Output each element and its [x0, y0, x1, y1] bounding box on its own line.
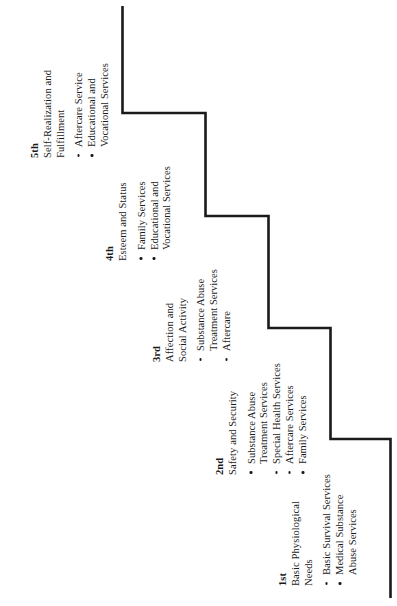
tier-1-service-label: Basic Survival Services — [320, 474, 331, 575]
bullet-icon — [275, 471, 278, 474]
list-item: Aftercare Services — [283, 325, 296, 475]
tier-2-service-label: Aftercare Services — [283, 385, 294, 464]
tier-5-service-label: Educational and Vocational Services — [85, 63, 109, 147]
tier-5-service-list: Aftercare Service Educational and Vocati… — [72, 8, 110, 158]
tier-1-service-list: Basic Survival Services Medical Substanc… — [320, 436, 358, 586]
tier-4-title: Esteem and Status — [116, 111, 129, 261]
bullet-icon — [301, 471, 304, 474]
diagram-canvas: 1st Basic Physiological Needs Basic Surv… — [0, 0, 397, 606]
list-item: Educational and Vocational Services — [148, 111, 173, 261]
tier-3-service-label: Substance Abuse Treatment Services — [194, 269, 218, 351]
bullet-icon — [225, 358, 228, 361]
bullet-icon — [90, 154, 93, 157]
list-item: Basic Survival Services — [320, 436, 333, 586]
bullet-icon — [139, 257, 142, 260]
list-item: Substance Abuse Treatment Services — [194, 212, 219, 362]
tier-4-service-label: Family Services — [135, 181, 146, 250]
list-item: Aftercare Service — [72, 8, 85, 158]
tier-4-service-list: Family Services Educational and Vocation… — [135, 111, 173, 261]
bullet-icon — [325, 582, 328, 585]
bullet-icon — [152, 257, 155, 260]
tier-2-service-label: Substance Abuse Treatment Services — [245, 382, 269, 464]
tier-1-service-label: Medical Substance Abuse Services — [333, 495, 357, 575]
bullet-icon — [199, 358, 202, 361]
tier-3-service-label: Aftercare — [220, 311, 231, 351]
tier-3-service-list: Substance Abuse Treatment Services After… — [194, 212, 232, 362]
tier-5-rank: 5th — [28, 8, 41, 158]
list-item: Medical Substance Abuse Services — [333, 436, 358, 586]
tier-4: 4th Esteem and Status Family Services Ed… — [103, 111, 173, 261]
list-item: Aftercare — [220, 212, 233, 362]
tier-5: 5th Self-Realization and Fulfillment Aft… — [28, 8, 111, 158]
bullet-icon — [338, 582, 341, 585]
list-item: Family Services — [296, 325, 309, 475]
tier-5-title: Self-Realization and Fulfillment — [41, 8, 67, 158]
tier-5-service-label: Aftercare Service — [72, 72, 83, 147]
bullet-icon — [77, 154, 80, 157]
tier-4-service-label: Educational and Vocational Services — [148, 166, 172, 250]
tier-2-service-label: Family Services — [296, 395, 307, 464]
list-item: Family Services — [135, 111, 148, 261]
list-item: Educational and Vocational Services — [85, 8, 110, 158]
list-item: Substance Abuse Treatment Services — [245, 325, 270, 475]
bullet-icon — [249, 471, 252, 474]
tier-2-service-label: Special Health Services — [270, 363, 281, 464]
bullet-icon — [288, 471, 291, 474]
tier-2-service-list: Substance Abuse Treatment Services Speci… — [245, 325, 309, 475]
list-item: Special Health Services — [270, 325, 283, 475]
